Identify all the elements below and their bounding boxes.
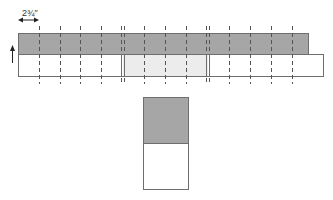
arrow-left-icon [18, 18, 23, 23]
dark-strip [19, 34, 309, 55]
arrow-head [10, 45, 15, 51]
unit-dark-half [144, 98, 189, 144]
measurement-label: 2¾″ [22, 9, 38, 18]
up-arrow-icon [10, 45, 15, 63]
strip-set [19, 26, 324, 84]
unit-light-half [144, 144, 189, 190]
measurement-indicator [18, 18, 39, 23]
cut-unit-square [144, 98, 189, 190]
highlighted-segment [123, 55, 208, 76]
arrow-right-icon [34, 18, 39, 23]
strip-cutting-diagram [0, 0, 333, 200]
